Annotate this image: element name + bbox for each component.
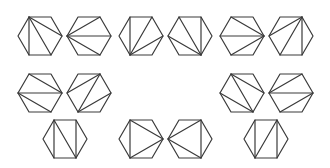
hexagon-triangulation (269, 74, 313, 112)
hexagon-triangulation (119, 17, 163, 55)
hexagon-triangulation (18, 74, 62, 112)
hexagon-triangulation (220, 17, 264, 55)
hexagon-triangulation (269, 17, 313, 55)
diagonal-line (255, 120, 277, 158)
hexagon-triangulation (244, 120, 288, 158)
diagonal-line (54, 120, 76, 158)
hexagon-triangulation (43, 120, 87, 158)
hexagon-triangulation (168, 120, 212, 158)
hexagon-triangulation (220, 74, 264, 112)
hexagon-triangulation (18, 17, 62, 55)
hexagon-triangulations-diagram (0, 0, 330, 168)
hexagon-triangulation (67, 74, 111, 112)
hexagon-triangulation (67, 17, 111, 55)
hexagon-triangulation (119, 120, 163, 158)
hexagon-triangulation (168, 17, 212, 55)
